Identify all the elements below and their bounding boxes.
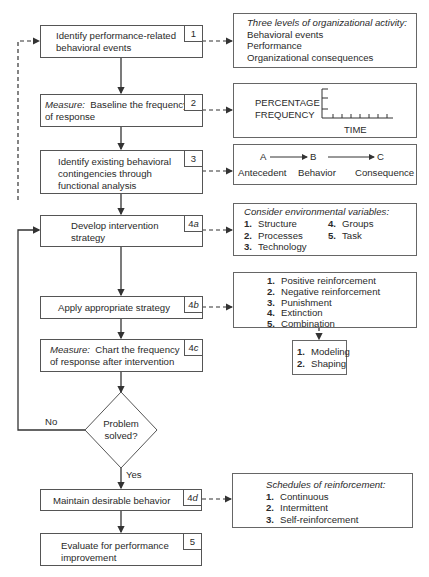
abc-note: A B C Antecedent Behavior Consequence <box>233 144 417 185</box>
step-5-box: Evaluate for performance improvement 5 <box>40 533 202 566</box>
step-1-box: Identify performance-related behavioral … <box>40 25 203 58</box>
step-1-text: Identify performance-related <box>56 30 176 42</box>
step-4b-number: 4b <box>184 297 202 313</box>
step-2-box: Measure: Baseline the frequency of respo… <box>40 94 203 127</box>
step-5-number: 5 <box>183 534 201 550</box>
step-4a-number: 4a <box>184 216 202 232</box>
decision-text: Problem solved? <box>96 418 146 442</box>
step-4b-box: Apply appropriate strategy 4b <box>40 296 203 319</box>
no-label: No <box>45 416 57 427</box>
strategies-note: 1.Positive reinforcement 2.Negative rein… <box>233 272 417 328</box>
yes-label: Yes <box>126 469 142 480</box>
schedules-note: Schedules of reinforcement: 1.Continuous… <box>232 473 413 528</box>
environment-note: Consider environmental variables: 1.Stru… <box>233 203 417 256</box>
step-3-box: Identify existing behavioral contingenci… <box>40 150 203 194</box>
step-4c-number: 4c <box>184 340 202 356</box>
levels-note: Three levels of organizational activity:… <box>233 13 417 68</box>
step-2-number: 2 <box>184 95 202 111</box>
modeling-note: 1.Modeling 2.Shaping <box>292 340 347 375</box>
step-4c-box: Measure: Chart the frequency of response… <box>40 339 203 372</box>
step-3-number: 3 <box>184 151 202 167</box>
step-4d-number: 4d <box>183 490 201 506</box>
frequency-graph-note: PERCENTAGE FREQUENCY TIME <box>233 83 417 138</box>
step-1-number: 1 <box>184 26 202 42</box>
step-4d-box: Maintain desirable behavior 4d <box>40 489 202 511</box>
step-4a-box: Develop intervention strategy 4a <box>40 215 203 247</box>
